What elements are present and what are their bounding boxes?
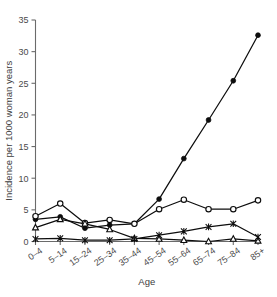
x-axis-tick-label: 75–84 bbox=[216, 245, 242, 268]
x-axis-title: Age bbox=[138, 276, 155, 287]
x-axis-tick-label: 55–64 bbox=[166, 245, 192, 268]
series-open-triangle bbox=[36, 219, 259, 241]
series-polyline bbox=[36, 219, 259, 241]
y-axis-tick-label: 30 bbox=[18, 47, 28, 57]
series-polyline bbox=[36, 224, 259, 240]
data-point-marker bbox=[181, 237, 187, 243]
data-point-marker bbox=[256, 33, 261, 38]
data-point-marker bbox=[107, 226, 113, 232]
data-point-marker bbox=[58, 201, 63, 206]
x-axis-tick-label: 45–54 bbox=[142, 245, 168, 268]
chart-container: 051015202530350–45–1415–2425–3435–4445–5… bbox=[0, 0, 277, 297]
data-point-marker bbox=[255, 234, 261, 241]
data-point-marker bbox=[231, 78, 236, 83]
data-point-marker bbox=[181, 197, 186, 202]
x-axis-tick-label: 5–14 bbox=[47, 245, 69, 265]
y-axis-tick-label: 20 bbox=[18, 110, 28, 120]
x-axis-tick-label: 65–74 bbox=[191, 245, 217, 268]
x-axis-tick-label: 35–44 bbox=[117, 245, 143, 268]
y-axis-tick-label: 5 bbox=[23, 205, 28, 215]
data-point-marker bbox=[33, 213, 38, 218]
y-axis-title: Incidence per 1000 woman years bbox=[3, 61, 14, 201]
data-point-marker bbox=[33, 224, 39, 230]
data-point-marker bbox=[132, 221, 137, 226]
y-axis-tick-label: 25 bbox=[18, 79, 28, 89]
y-axis-tick-label: 10 bbox=[18, 174, 28, 184]
series-layer bbox=[33, 33, 261, 244]
data-point-marker bbox=[206, 238, 212, 244]
x-axis-tick-label: 15–24 bbox=[67, 245, 93, 268]
x-axis-tick-label: 85+ bbox=[248, 245, 266, 262]
x-axis-tick-label: 25–34 bbox=[92, 245, 118, 268]
data-point-marker bbox=[156, 207, 161, 212]
data-point-marker bbox=[230, 236, 236, 242]
labels-layer: 051015202530350–45–1415–2425–3435–4445–5… bbox=[3, 15, 267, 287]
x-axis-tick-label: 0–4 bbox=[26, 245, 44, 262]
data-point-marker bbox=[157, 197, 162, 202]
data-point-marker bbox=[206, 118, 211, 123]
y-axis-tick-label: 15 bbox=[18, 142, 28, 152]
data-point-marker bbox=[107, 217, 112, 222]
data-point-marker bbox=[206, 207, 211, 212]
series-filled-circle-markers bbox=[33, 33, 260, 231]
incidence-by-age-line-chart: 051015202530350–45–1415–2425–3435–4445–5… bbox=[0, 0, 277, 297]
series-filled-circle bbox=[36, 35, 259, 228]
series-polyline bbox=[36, 35, 259, 228]
series-asterisk bbox=[36, 224, 259, 240]
y-axis-tick-label: 35 bbox=[18, 15, 28, 25]
data-point-marker bbox=[255, 198, 260, 203]
y-axis-tick-label: 0 bbox=[23, 237, 28, 247]
axes-layer bbox=[32, 20, 259, 245]
data-point-marker bbox=[231, 207, 236, 212]
data-point-marker bbox=[181, 156, 186, 161]
